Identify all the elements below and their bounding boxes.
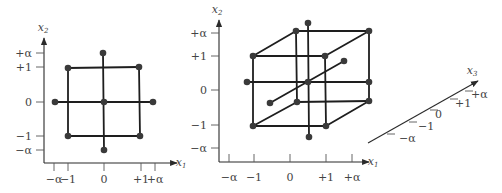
design-edge xyxy=(326,101,369,126)
design-point xyxy=(52,99,59,106)
z-tick-label: 0 xyxy=(435,108,442,121)
x-tick-label: −α xyxy=(221,171,238,184)
design-point xyxy=(250,53,257,60)
design-point xyxy=(306,134,313,141)
design-point xyxy=(366,98,373,105)
design-point xyxy=(136,64,143,71)
design-edge xyxy=(253,102,297,126)
design-edge xyxy=(253,31,296,56)
design-point xyxy=(150,99,157,106)
x-tick-label: +1 xyxy=(318,171,334,184)
design-point xyxy=(366,28,373,35)
design-point xyxy=(65,65,72,72)
design-edge xyxy=(296,31,297,102)
x-tick-label: −1 xyxy=(60,173,76,186)
x-tick-label: −1 xyxy=(246,171,262,184)
y-tick-label: +α xyxy=(190,27,207,40)
x2-axis-label: x2 xyxy=(212,3,223,17)
z-tick-label: +α xyxy=(471,88,488,101)
x-tick-label: 0 xyxy=(287,171,294,184)
y-tick-label: −α xyxy=(190,142,207,155)
central-composite-design-figure: x2+α+10−1−αx1−α−10+1+α x2+α+10−1−αx1−α−1… xyxy=(0,0,502,193)
two-factor-design-panel: x2+α+10−1−αx1−α−10+1+α xyxy=(15,21,186,186)
y-tick-label: +1 xyxy=(16,61,32,74)
design-point xyxy=(244,79,251,86)
design-point xyxy=(323,123,330,130)
z-tick-label: +1 xyxy=(455,97,471,110)
y-tick-label: −α xyxy=(15,144,32,157)
design-point xyxy=(101,99,108,106)
three-factor-design-panel: x2+α+10−1−αx1−α−10+1+αx3−α−10+1+α xyxy=(190,3,488,184)
design-point xyxy=(305,79,312,86)
design-point xyxy=(267,100,274,107)
design-point xyxy=(65,133,72,140)
design-point xyxy=(294,99,301,106)
x2-axis-label: x2 xyxy=(38,21,49,35)
x3-axis-label: x3 xyxy=(467,64,478,78)
design-point xyxy=(101,147,108,154)
design-point xyxy=(100,50,107,57)
x3-axis xyxy=(368,81,478,143)
x1-axis-label: x1 xyxy=(368,155,379,169)
y-tick-label: −1 xyxy=(191,119,207,132)
y-tick-label: +α xyxy=(15,47,32,60)
x-tick-label: +α xyxy=(344,171,361,184)
design-point xyxy=(293,28,300,35)
z-tick-label: −α xyxy=(399,132,416,145)
design-point xyxy=(341,58,348,65)
design-edge xyxy=(325,56,326,126)
y-tick-label: −1 xyxy=(16,130,32,143)
design-point xyxy=(322,53,329,60)
y-tick-label: +1 xyxy=(191,50,207,63)
design-point xyxy=(137,133,144,140)
z-tick-label: −1 xyxy=(418,120,434,133)
y-tick-label: 0 xyxy=(200,84,207,97)
design-edge xyxy=(325,31,369,56)
design-point xyxy=(250,123,257,130)
x-tick-label: +α xyxy=(147,173,164,186)
design-point xyxy=(366,79,373,86)
y-tick-label: 0 xyxy=(25,96,32,109)
design-point xyxy=(305,20,312,27)
x-tick-label: 0 xyxy=(101,173,108,186)
x1-axis-label: x1 xyxy=(176,156,187,170)
